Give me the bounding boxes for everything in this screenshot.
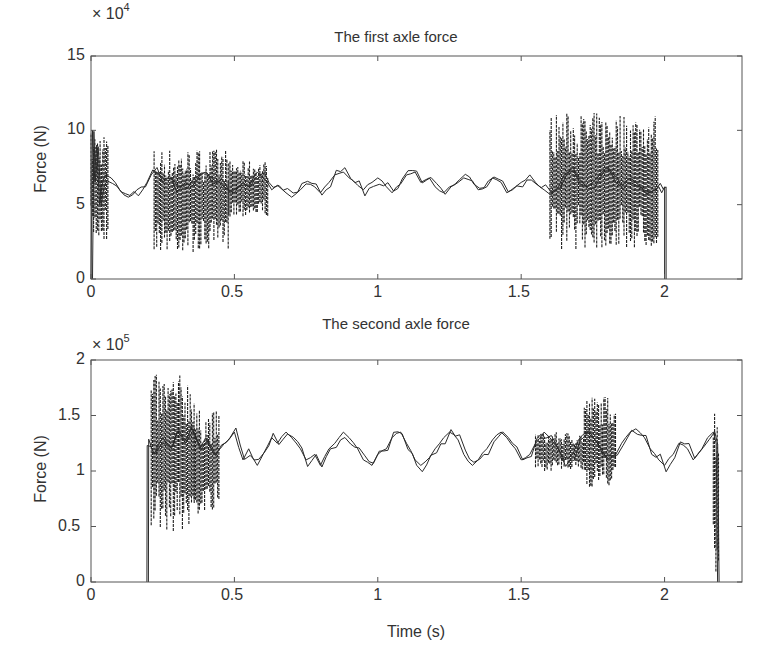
chart-canvas [0, 0, 764, 668]
oscillation-band [229, 160, 268, 216]
oscillation-band [584, 397, 615, 487]
oscillation-band [154, 149, 228, 252]
series-line [147, 427, 718, 582]
oscillation-band [151, 375, 194, 531]
plot-1 [91, 56, 742, 279]
oscillation-band [194, 411, 219, 514]
plot-2 [91, 360, 742, 582]
oscillation-band [550, 113, 658, 249]
